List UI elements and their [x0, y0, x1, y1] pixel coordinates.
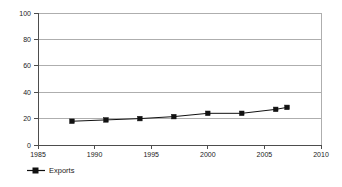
exports-line-chart: 100 80 60 40 20 0 1985 1990 1995 2000 20…	[0, 0, 342, 187]
y-tick-label-80: 80	[23, 36, 31, 43]
data-point-2000	[206, 111, 211, 116]
chart-background	[0, 0, 342, 187]
x-tick-label-1995: 1995	[143, 151, 159, 158]
x-tick-label-2000: 2000	[200, 151, 216, 158]
legend-marker-exports	[33, 168, 39, 174]
data-point-1994	[138, 116, 143, 121]
x-tick-label-2005: 2005	[257, 151, 273, 158]
data-point-2006	[273, 107, 278, 112]
data-point-1991	[104, 118, 109, 123]
y-tick-label-0: 0	[27, 142, 31, 149]
chart-container: 100 80 60 40 20 0 1985 1990 1995 2000 20…	[0, 0, 342, 187]
y-tick-label-20: 20	[23, 115, 31, 122]
y-tick-label-60: 60	[23, 62, 31, 69]
data-point-2007	[285, 105, 290, 110]
data-point-2003	[239, 111, 244, 116]
legend-label-exports: Exports	[49, 166, 75, 175]
data-point-1997	[172, 114, 177, 119]
x-tick-label-1985: 1985	[30, 151, 46, 158]
x-tick-label-1990: 1990	[87, 151, 103, 158]
data-point-1988	[70, 119, 75, 124]
y-tick-label-40: 40	[23, 89, 31, 96]
x-tick-label-2010: 2010	[313, 151, 329, 158]
y-tick-label-100: 100	[19, 10, 31, 17]
